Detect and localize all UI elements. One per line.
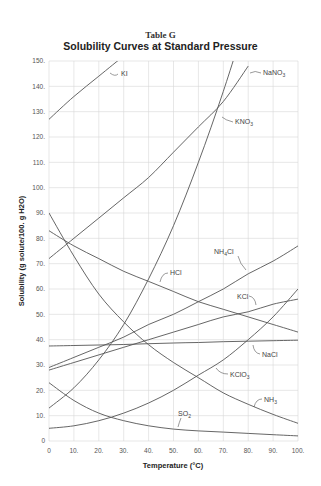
leader-line <box>216 368 228 374</box>
label-nh4cl: NH4Cl <box>214 248 234 257</box>
leader-line <box>222 117 233 122</box>
y-tick-label: 110. <box>33 159 45 166</box>
x-tick-label: 90. <box>269 447 278 454</box>
y-tick-label: 150. <box>32 57 45 64</box>
x-tick-label: 40. <box>144 447 153 454</box>
x-tick-label: 10. <box>69 447 78 454</box>
leader-line <box>254 399 262 407</box>
label-nano3: NaNO3 <box>263 69 285 78</box>
y-tick-label: 50. <box>36 311 45 318</box>
y-tick-label: 80. <box>36 235 45 242</box>
label-hcl: HCl <box>170 269 182 276</box>
x-tick-label: 30. <box>119 447 128 454</box>
curve-ki <box>49 56 124 119</box>
y-tick-label: 100. <box>32 184 45 191</box>
label-kclo3: KClO3 <box>230 371 250 380</box>
x-tick-label: 80. <box>244 447 253 454</box>
x-tick-label: 100. <box>292 447 305 454</box>
y-tick-label: 120. <box>32 133 45 140</box>
y-tick-label: 0 <box>41 437 45 444</box>
label-kcl: KCl <box>237 293 249 300</box>
y-tick-label: 130. <box>32 108 45 115</box>
x-axis-title: Temperature (°C) <box>143 461 204 470</box>
label-ki: KI <box>121 70 128 77</box>
leader-line <box>160 273 168 282</box>
y-axis-title: Solubility (g solute/100. g H2O) <box>17 195 26 306</box>
label-so2: SO2 <box>178 410 191 419</box>
x-tick-label: 0 <box>47 447 51 454</box>
leader-line <box>238 256 246 270</box>
grid <box>49 61 298 441</box>
leader-line <box>249 296 256 305</box>
label-nacl: NaCl <box>262 351 278 358</box>
y-tick-label: 20. <box>36 387 45 394</box>
solubility-chart: 010.20.30.40.50.60.70.80.90.100.010.20.3… <box>0 0 321 486</box>
label-nh3: NH3 <box>264 396 277 405</box>
leader-line <box>110 73 118 75</box>
leader-line <box>253 345 260 354</box>
x-tick-label: 70. <box>219 447 228 454</box>
x-tick-label: 50. <box>169 447 178 454</box>
x-tick-label: 20. <box>94 447 103 454</box>
curve-labels: KINaNO3KNO3NH4ClKClHClNaClKClO3NH3SO2 <box>110 69 285 427</box>
y-tick-label: 70. <box>36 260 45 267</box>
x-tick-label: 60. <box>194 447 203 454</box>
y-tick-label: 90. <box>36 209 45 216</box>
y-tick-label: 30. <box>36 361 45 368</box>
y-tick-label: 140. <box>32 83 45 90</box>
leader-line <box>178 418 181 427</box>
y-tick-label: 60. <box>36 285 45 292</box>
leader-line <box>250 72 261 74</box>
y-tick-label: 40. <box>36 336 45 343</box>
label-kno3: KNO3 <box>235 118 253 127</box>
y-tick-label: 10. <box>36 412 45 419</box>
